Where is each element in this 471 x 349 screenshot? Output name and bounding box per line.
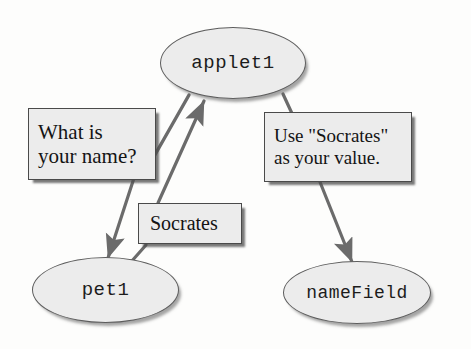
object-node-applet1[interactable]: applet1 xyxy=(160,27,306,99)
edge-socrates-return-to-applet1 xyxy=(158,101,204,203)
object-node-pet1-label: pet1 xyxy=(82,279,130,301)
edge-use-socrates-to-namefield xyxy=(320,182,352,262)
object-node-applet1-label: applet1 xyxy=(191,52,274,74)
message-box-what-is-your-name[interactable]: What is your name? xyxy=(28,108,156,180)
object-node-namefield-label: nameField xyxy=(306,283,408,303)
message-box-use-socrates-line2: as your value. xyxy=(274,147,411,169)
message-box-what-is-your-name-line2: your name? xyxy=(38,144,155,168)
message-box-socrates-return[interactable]: Socrates xyxy=(138,203,242,244)
message-box-what-is-your-name-line1: What is xyxy=(38,120,155,144)
message-box-use-socrates[interactable]: Use "Socrates" as your value. xyxy=(264,112,412,182)
edge-what-is-your-name-to-pet1 xyxy=(108,178,134,258)
object-interaction-diagram: applet1 pet1 nameField What is your name… xyxy=(0,0,471,349)
object-node-namefield[interactable]: nameField xyxy=(283,261,431,324)
message-box-socrates-return-line1: Socrates xyxy=(150,212,241,235)
message-box-use-socrates-line1: Use "Socrates" xyxy=(274,125,411,147)
object-node-pet1[interactable]: pet1 xyxy=(32,257,179,323)
